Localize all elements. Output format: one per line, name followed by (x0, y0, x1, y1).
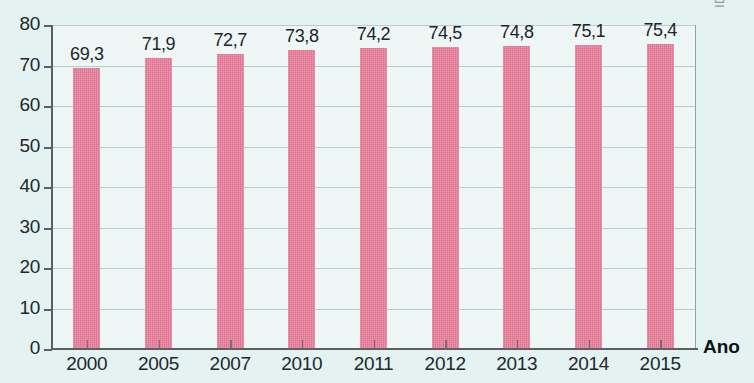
bar (145, 58, 172, 348)
y-axis-tick (44, 228, 52, 230)
x-axis-label: 2007 (194, 353, 266, 375)
y-axis-label: 20 (0, 256, 40, 278)
x-axis-label: 2005 (123, 353, 195, 375)
watermark-text: ID/BR (712, 0, 727, 8)
y-axis-tick (44, 147, 52, 149)
bar-value-label: 72,7 (194, 30, 266, 51)
bar (73, 68, 100, 348)
x-axis-label: 2012 (409, 353, 481, 375)
y-axis-label: 0 (0, 337, 40, 359)
x-axis-label: 2011 (338, 353, 410, 375)
bar-value-label: 74,5 (409, 23, 481, 44)
x-axis-label: 2010 (266, 353, 338, 375)
x-axis-tick (589, 340, 591, 349)
x-axis-tick (159, 340, 161, 349)
y-axis-tick (44, 187, 52, 189)
y-axis-label: 80 (0, 13, 40, 35)
bar (503, 46, 530, 348)
y-axis-label: 40 (0, 175, 40, 197)
x-axis-tick (230, 340, 232, 349)
y-axis-tick (44, 66, 52, 68)
y-axis-label: 30 (0, 216, 40, 238)
x-axis-tick (517, 340, 519, 349)
y-axis-label: 50 (0, 135, 40, 157)
bar-value-label: 74,2 (338, 24, 410, 45)
x-axis-tick (445, 340, 447, 349)
x-axis-tick (660, 340, 662, 349)
bar-chart: 80 70 60 50 40 30 20 10 0 69,3 71,9 72,7… (0, 0, 754, 383)
bar (288, 50, 315, 348)
x-axis-label: 2014 (553, 353, 625, 375)
x-axis-label: 2000 (51, 353, 123, 375)
y-axis-tick (44, 268, 52, 270)
x-axis-label: 2013 (481, 353, 553, 375)
y-axis-label: 60 (0, 94, 40, 116)
x-axis-tick (374, 340, 376, 349)
x-axis-tick (302, 340, 304, 349)
y-axis-tick (44, 309, 52, 311)
y-axis-label: 70 (0, 54, 40, 76)
bar (432, 47, 459, 348)
bar (575, 45, 602, 348)
bar (217, 54, 244, 348)
y-axis-label: 10 (0, 297, 40, 319)
bar (360, 48, 387, 348)
x-axis-tick (87, 340, 89, 349)
bar-value-label: 75,4 (624, 20, 696, 41)
bar (647, 44, 674, 348)
y-axis-tick (44, 106, 52, 108)
y-axis-tick (44, 25, 52, 27)
bar-value-label: 73,8 (266, 26, 338, 47)
bar-value-label: 74,8 (481, 22, 553, 43)
x-axis-label: 2015 (624, 353, 696, 375)
bar-value-label: 69,3 (51, 44, 123, 65)
bar-value-label: 71,9 (123, 34, 195, 55)
x-axis-title: Ano (703, 336, 740, 358)
bar-value-label: 75,1 (553, 21, 625, 42)
